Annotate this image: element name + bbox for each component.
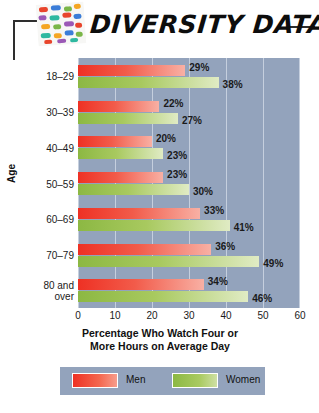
chart-bar-value: 27% [182, 115, 202, 126]
chart-category-label: 70–79 [6, 250, 74, 261]
chart-bar-men [78, 279, 204, 290]
chart-bar-women [78, 256, 259, 267]
chart-x-axis-title: Percentage Who Watch Four orMore Hours o… [40, 327, 280, 353]
chart-bar-men [78, 65, 185, 76]
chart-bar-group: 33%41% [78, 201, 300, 237]
chart-bar-women [78, 113, 178, 124]
chart-bar-value: 41% [234, 222, 254, 233]
legend-label: Women [226, 374, 260, 385]
chart-bar-value: 36% [215, 241, 235, 252]
chart-bar-group: 36%49% [78, 237, 300, 273]
chart-bar-value: 29% [189, 62, 209, 73]
chart-bar-value: 22% [163, 98, 183, 109]
chart-bar-value: 46% [252, 293, 272, 304]
chart-bar-group: 34%46% [78, 272, 300, 308]
chart-x-tick-label: 40 [214, 310, 238, 321]
chart-bar-women [78, 291, 248, 302]
chart-bar-men [78, 136, 152, 147]
chart-bar-value: 34% [208, 276, 228, 287]
page-title: DIVERSITY DATA [88, 6, 291, 46]
chart-bar-value: 38% [223, 79, 243, 90]
chart-category-label: 60–69 [6, 214, 74, 225]
legend-swatch-men [72, 373, 118, 388]
chart-y-axis-title: Age [6, 151, 17, 197]
chart-category-label: 30–39 [6, 107, 74, 118]
chart-bar-value: 30% [193, 186, 213, 197]
chart-x-tick-label: 20 [140, 310, 164, 321]
chart-x-tick-label: 0 [66, 310, 90, 321]
chart-bar-women [78, 184, 189, 195]
chart-bar-value: 49% [263, 258, 283, 269]
chart-bar-women [78, 220, 230, 231]
chart-bar-value: 33% [204, 205, 224, 216]
chart-bar-group: 23%30% [78, 165, 300, 201]
chart-x-tick-label: 30 [177, 310, 201, 321]
chart-x-tick-label: 60 [288, 310, 312, 321]
chart-bar-women [78, 77, 219, 88]
chart-bar-men [78, 101, 159, 112]
chart-bar-value: 23% [167, 169, 187, 180]
chart-bars: 29%38%22%27%20%23%23%30%33%41%36%49%34%4… [78, 58, 300, 308]
chart-bar-group: 22%27% [78, 94, 300, 130]
chart-bar-value: 20% [156, 133, 176, 144]
chart-bar-group: 29%38% [78, 58, 300, 94]
legend-label: Men [126, 374, 145, 385]
chart-category-label: 18–29 [6, 71, 74, 82]
chart-bar-men [78, 208, 200, 219]
chart-legend: MenWomen [60, 367, 265, 395]
legend-swatch-women [172, 373, 218, 388]
chart-bar-men [78, 172, 163, 183]
chart-bar-men [78, 244, 211, 255]
chart-bar-group: 20%23% [78, 129, 300, 165]
chart-bar-women [78, 148, 163, 159]
page-header: DIVERSITY DATA [0, 0, 319, 58]
chart-x-tick-label: 50 [251, 310, 275, 321]
chart-x-tick-label: 10 [103, 310, 127, 321]
chart-x-axis-ticks: 0102030405060 [78, 310, 300, 324]
chart-bar-value: 23% [167, 150, 187, 161]
mosaic-pills-icon [36, 1, 87, 46]
chart-category-label: 80 andover [6, 280, 74, 302]
